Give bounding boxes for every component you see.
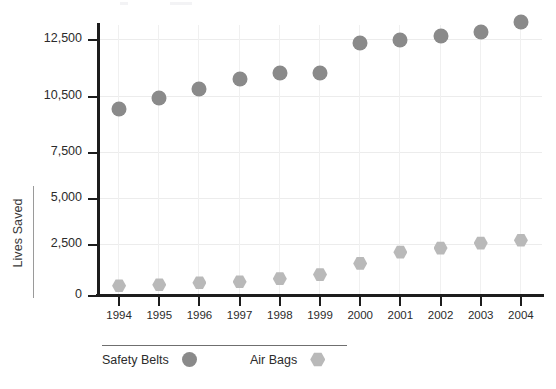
y-axis-tick-label-text: 10,500	[20, 88, 82, 102]
data-point-safety-belts	[513, 14, 528, 29]
x-axis-tick-label: 2004	[497, 309, 545, 321]
x-axis-tick	[279, 297, 281, 306]
data-point-safety-belts	[353, 36, 368, 51]
legend-item-air-bags[interactable]: Air Bags	[250, 352, 325, 367]
x-axis-tick	[440, 297, 442, 306]
gridline-vertical	[480, 25, 481, 295]
x-axis-tick	[158, 297, 160, 306]
y-axis-tick-label-text: 2,500	[20, 236, 82, 250]
x-axis-tick	[239, 297, 241, 306]
legend-label-safety-belts: Safety Belts	[102, 353, 169, 367]
gridline-vertical	[520, 25, 521, 295]
y-axis-tick-label-text: 0	[20, 287, 82, 301]
y-axis-tick-label-text: 12,500	[20, 31, 82, 45]
x-axis-tick	[359, 297, 361, 306]
gridline-horizontal	[100, 39, 542, 40]
gridline-horizontal	[100, 152, 542, 153]
x-axis-tick	[520, 297, 522, 306]
data-point-safety-belts	[433, 29, 448, 44]
y-axis-tick-label: 7,500	[20, 144, 82, 160]
legend-item-safety-belts[interactable]: Safety Belts	[102, 352, 197, 367]
gridline-vertical	[359, 25, 360, 295]
data-point-safety-belts	[232, 71, 247, 86]
data-point-safety-belts	[313, 66, 328, 81]
legend-label-air-bags: Air Bags	[250, 353, 297, 367]
cropped-title-artifact	[0, 0, 556, 10]
data-point-safety-belts	[112, 102, 127, 117]
gridline-vertical	[440, 25, 441, 295]
x-axis-tick	[480, 297, 482, 306]
gridline-horizontal	[100, 198, 542, 199]
y-axis-tick-label: 10,500	[20, 88, 82, 104]
y-axis-tick	[88, 39, 98, 41]
gridline-vertical	[239, 25, 240, 295]
y-axis-tick	[88, 152, 98, 154]
data-point-safety-belts	[192, 81, 207, 96]
chart-figure: Lives Saved 12,50010,5007,5005,0002,5000…	[0, 0, 556, 389]
legend-swatch-hexagon-icon	[310, 352, 325, 367]
y-axis-tick	[88, 295, 98, 297]
y-axis-tick	[88, 198, 98, 200]
gridline-vertical	[118, 25, 119, 295]
legend-swatch-circle-icon	[182, 352, 197, 367]
x-axis-tick	[118, 297, 120, 306]
gridline-vertical	[158, 25, 159, 295]
y-axis-tick	[88, 244, 98, 246]
y-axis-tick-label: 5,000	[20, 190, 82, 206]
legend-divider	[102, 345, 347, 346]
x-axis-tick	[198, 297, 200, 306]
x-axis-tick	[319, 297, 321, 306]
gridline-vertical	[198, 25, 199, 295]
chart-legend: Safety Belts Air Bags	[102, 352, 402, 374]
x-axis-tick	[399, 297, 401, 306]
data-point-safety-belts	[393, 33, 408, 48]
y-axis-tick-label: 0	[20, 287, 82, 303]
y-axis-tick-label: 12,500	[20, 31, 82, 47]
y-axis-tick-label-text: 7,500	[20, 144, 82, 158]
y-axis-tick	[88, 96, 98, 98]
data-point-safety-belts	[272, 66, 287, 81]
data-point-safety-belts	[473, 24, 488, 39]
y-axis-tick-label: 2,500	[20, 236, 82, 252]
y-axis-tick-label-text: 5,000	[20, 190, 82, 204]
data-point-safety-belts	[152, 90, 167, 105]
y-axis-spine	[97, 23, 100, 297]
